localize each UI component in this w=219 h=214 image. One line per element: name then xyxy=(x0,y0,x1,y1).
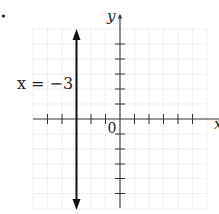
bullet-dot xyxy=(2,14,5,17)
y-axis-label: y xyxy=(106,7,116,25)
coordinate-plane: x = −3 y 0 x xyxy=(0,0,219,214)
arrow-up-icon xyxy=(73,29,81,40)
origin-label: 0 xyxy=(108,120,117,136)
y-axis xyxy=(115,15,125,208)
arrow-down-icon xyxy=(73,199,81,210)
equation-label: x = −3 xyxy=(17,74,73,93)
x-axis-label: x xyxy=(214,115,219,133)
x-axis xyxy=(33,114,219,124)
